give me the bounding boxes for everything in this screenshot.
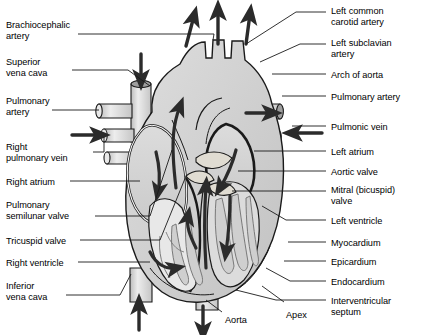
heart-diagram: Brachiocephalic arterySuperior vena cava… (0, 0, 422, 335)
label-epicardium: Epicardium (331, 257, 376, 268)
arrow-up-brachiocephalic (186, 16, 194, 46)
label-left-atrium: Left atrium (331, 147, 374, 158)
label-pulmonary-artery-right: Pulmonary artery (331, 92, 400, 103)
label-myocardium: Myocardium (331, 238, 381, 249)
label-left-ventricle: Left ventricle (331, 216, 382, 227)
label-right-atrium: Right atrium (6, 177, 55, 188)
label-left-common-carotid-artery: Left common carotid artery (331, 6, 384, 27)
label-inferior-vena-cava: Inferior vena cava (6, 281, 47, 302)
label-pulmonary-semilunar-valve: Pulmonary semilunar valve (6, 200, 69, 221)
label-mitral-bicuspid-valve: Mitral (bicuspid) valve (331, 185, 395, 206)
label-left-subclavian-artery: Left subclavian artery (331, 38, 392, 59)
label-superior-vena-cava: Superior vena cava (6, 57, 47, 78)
label-interventricular-septum: Interventricular septum (331, 296, 391, 317)
label-aortic-valve: Aortic valve (331, 167, 378, 178)
label-endocardium: Endocardium (331, 277, 385, 288)
label-right-ventricle: Right ventricle (6, 258, 63, 269)
label-right-pulmonary-vein: Right pulmonary vein (6, 142, 68, 163)
arrow-up-subclavian (246, 14, 250, 44)
arrow-left-ventricle-outflow (205, 186, 207, 268)
label-apex: Apex (286, 310, 307, 321)
label-aorta: Aorta (225, 315, 247, 326)
label-pulmonary-artery-left: Pulmonary artery (6, 96, 49, 117)
label-pulmonic-vein: Pulmonic vein (331, 122, 388, 133)
label-brachiocephalic-artery: Brachiocephalic artery (6, 20, 70, 41)
label-tricuspid-valve: Tricuspid valve (6, 236, 66, 247)
label-arch-of-aorta: Arch of aorta (331, 70, 383, 81)
